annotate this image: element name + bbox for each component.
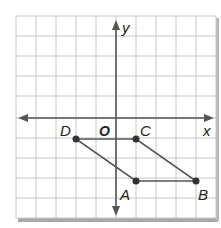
point-a-label: A — [119, 186, 130, 203]
point-b — [193, 178, 200, 185]
point-d — [73, 136, 80, 143]
point-c — [133, 136, 140, 143]
origin-label: O — [99, 123, 110, 139]
point-b-label: B — [198, 186, 208, 203]
grid-shadow — [18, 218, 218, 222]
x-axis-label: x — [202, 122, 211, 139]
point-c-label: C — [140, 122, 151, 139]
point-a — [133, 178, 140, 185]
coordinate-plane: y x O D C A B — [0, 0, 221, 228]
point-d-label: D — [60, 122, 71, 139]
